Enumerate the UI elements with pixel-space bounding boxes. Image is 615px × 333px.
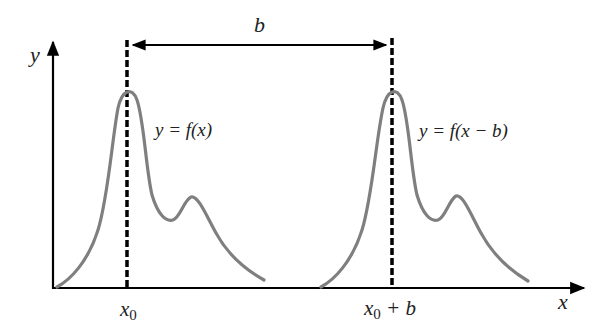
curve-label-f-x-minus-b: y = f(x − b) <box>417 120 508 142</box>
tick-x0b-suffix: + b <box>381 296 416 320</box>
x-axis-label: x <box>557 289 568 314</box>
tick-label-x0-plus-b: x0 + b <box>363 296 416 322</box>
svg-text:x0 + b: x0 + b <box>363 296 416 322</box>
tick-label-x0: x0 <box>119 297 137 323</box>
shift-label: b <box>254 12 265 37</box>
y-axis-label: y <box>28 42 40 67</box>
translation-diagram: y x b y = f(x) y = f(x − b) x0 x0 + b <box>0 0 615 333</box>
tick-x0-sub: 0 <box>129 307 137 323</box>
svg-text:x0: x0 <box>119 297 137 323</box>
curve-label-f-x: y = f(x) <box>153 119 212 141</box>
axes <box>52 42 584 289</box>
tick-x0b-sub: 0 <box>373 306 381 322</box>
